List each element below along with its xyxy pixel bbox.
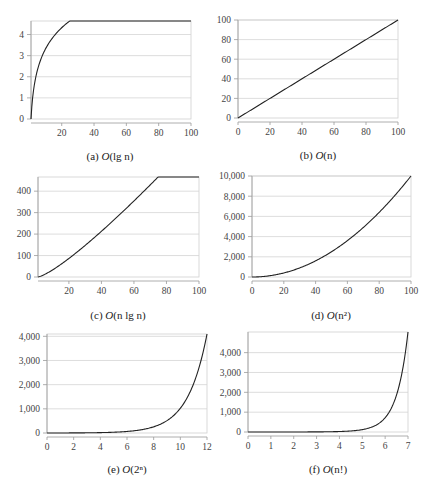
y-tick-label: 0 — [26, 272, 31, 282]
x-tick-label: 10 — [176, 442, 186, 452]
chart-panel-b: 020406080100020406080100(b) O(n) — [217, 15, 406, 162]
y-tick-label: 6,000 — [224, 212, 246, 222]
y-tick-label: 100 — [217, 15, 232, 25]
x-tick-label: 60 — [343, 286, 353, 296]
chart-caption: (d) O(n²) — [311, 309, 351, 322]
x-tick-label: 20 — [57, 128, 67, 138]
series-line-n-lg-n — [38, 177, 199, 277]
y-tick-label: 0 — [226, 113, 231, 123]
series-line-lg-n — [31, 21, 191, 119]
caption-func: O — [327, 309, 335, 321]
y-tick-label: 60 — [222, 55, 232, 65]
x-tick-label: 20 — [265, 127, 275, 137]
x-tick-label: 4 — [98, 442, 103, 452]
y-tick-label: 2,000 — [19, 380, 41, 390]
y-tick-label: 0 — [240, 272, 245, 282]
y-tick-label: 200 — [17, 229, 32, 239]
x-tick-label: 4 — [337, 441, 342, 451]
caption-label: (b) — [300, 149, 316, 162]
x-tick-label: 100 — [184, 128, 199, 138]
y-tick-label: 1,000 — [19, 404, 41, 414]
caption-func: O — [323, 463, 331, 475]
y-tick-label: 2,000 — [224, 252, 246, 262]
x-tick-label: 6 — [383, 441, 388, 451]
x-tick-label: 40 — [311, 286, 321, 296]
caption-arg: (2ⁿ) — [130, 463, 147, 476]
x-tick-label: 5 — [360, 441, 365, 451]
y-tick-label: 4 — [19, 30, 24, 40]
y-tick-label: 300 — [17, 208, 32, 218]
x-tick-label: 0 — [250, 286, 255, 296]
caption-label: (e) — [107, 463, 122, 476]
caption-func: O — [315, 149, 323, 161]
x-tick-label: 0 — [236, 127, 241, 137]
caption-func: O — [122, 463, 130, 475]
y-tick-label: 2,000 — [220, 388, 242, 398]
caption-arg: (n!) — [331, 463, 348, 476]
chart-panel-f: 01,0002,0003,0004,00001234567(f) O(n!) — [220, 332, 411, 476]
y-tick-label: 8,000 — [224, 192, 246, 202]
series-line-n — [238, 20, 398, 118]
x-tick-label: 8 — [151, 442, 156, 452]
y-tick-label: 100 — [17, 251, 32, 261]
plot-area-frame — [47, 334, 207, 433]
x-tick-label: 60 — [329, 127, 339, 137]
series-line-n-2 — [252, 176, 411, 277]
chart-caption: (a) O(lg n) — [86, 150, 133, 163]
chart-caption: (f) O(n!) — [309, 463, 348, 476]
x-tick-label: 100 — [391, 127, 406, 137]
x-tick-label: 2 — [291, 441, 296, 451]
chart-panel-c: 010020030040020406080100(c) O(n lg n) — [17, 177, 207, 322]
x-tick-label: 80 — [162, 286, 172, 296]
y-tick-label: 4,000 — [224, 232, 246, 242]
chart-caption: (c) O(n lg n) — [90, 309, 146, 322]
x-tick-label: 3 — [314, 441, 319, 451]
plot-area-frame — [38, 177, 199, 277]
y-tick-label: 400 — [17, 186, 32, 196]
y-tick-label: 40 — [222, 74, 232, 84]
complexity-charts-figure: 0123420406080100(a) O(lg n)0204060801000… — [0, 0, 429, 491]
caption-arg: (n lg n) — [113, 309, 146, 322]
y-tick-label: 0 — [35, 428, 40, 438]
caption-func: O — [101, 150, 109, 162]
chart-panel-e: 01,0002,0003,0004,000024681012(e) O(2ⁿ) — [19, 332, 212, 476]
x-tick-label: 100 — [404, 286, 419, 296]
y-tick-label: 3,000 — [220, 368, 242, 378]
y-tick-label: 20 — [222, 94, 232, 104]
plot-area-frame — [248, 332, 408, 432]
plot-area-frame — [252, 176, 411, 277]
x-tick-label: 0 — [246, 441, 251, 451]
x-tick-label: 80 — [154, 128, 164, 138]
x-tick-label: 40 — [97, 286, 107, 296]
caption-arg: (n²) — [335, 309, 351, 322]
caption-arg: (n) — [323, 149, 336, 162]
x-tick-label: 7 — [406, 441, 411, 451]
chart-panel-a: 0123420406080100(a) O(lg n) — [19, 21, 198, 163]
x-tick-label: 60 — [122, 128, 132, 138]
x-tick-label: 100 — [192, 286, 207, 296]
y-tick-label: 1,000 — [220, 407, 242, 417]
x-tick-label: 80 — [361, 127, 371, 137]
y-tick-label: 80 — [222, 35, 232, 45]
y-tick-label: 0 — [236, 427, 241, 437]
y-tick-label: 3,000 — [19, 356, 41, 366]
y-tick-label: 2 — [19, 72, 24, 82]
caption-label: (f) — [309, 463, 323, 476]
y-tick-label: 4,000 — [19, 332, 41, 342]
x-tick-label: 80 — [374, 286, 384, 296]
series-line-2-n — [47, 334, 207, 433]
x-tick-label: 0 — [45, 442, 50, 452]
x-tick-label: 6 — [125, 442, 130, 452]
caption-label: (d) — [311, 309, 327, 322]
y-tick-label: 10,000 — [219, 171, 245, 181]
chart-caption: (b) O(n) — [300, 149, 337, 162]
x-tick-label: 40 — [297, 127, 307, 137]
chart-panel-d: 02,0004,0006,0008,00010,000020406080100(… — [219, 171, 419, 322]
y-tick-label: 3 — [19, 51, 24, 61]
y-tick-label: 0 — [19, 114, 24, 124]
caption-label: (a) — [86, 150, 101, 163]
x-tick-label: 12 — [202, 442, 212, 452]
x-tick-label: 20 — [64, 286, 74, 296]
caption-label: (c) — [90, 309, 105, 322]
caption-func: O — [105, 309, 113, 321]
